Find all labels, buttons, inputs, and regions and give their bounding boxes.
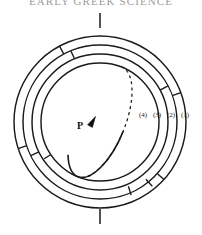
- ring-label-3: (3): [153, 112, 161, 119]
- radial-connector-ul-a: [60, 46, 64, 54]
- point-p-marker: [88, 116, 96, 127]
- ring-label-1: (1): [181, 112, 189, 119]
- radial-connector-ll-b: [31, 152, 39, 156]
- ring-circle-3: [32, 54, 168, 190]
- point-p-label: P: [77, 121, 83, 131]
- radial-connector-ul-b: [71, 51, 75, 59]
- radial-connector-ur-a: [172, 93, 180, 96]
- great-circle-back-arc: [55, 58, 146, 186]
- ring-circle-2: [23, 45, 177, 199]
- radial-connector-ll-a: [18, 146, 27, 149]
- figure-root: EARLY GREEK SCIENCE: [0, 0, 202, 235]
- direction-arrowhead: [88, 116, 96, 127]
- ring-circle-1: [14, 36, 186, 208]
- radial-connector-ur-b: [160, 86, 168, 90]
- great-circle-front-arc: [55, 58, 146, 186]
- radial-connector-ll-c: [44, 155, 51, 159]
- ring-label-4: (4): [139, 112, 147, 119]
- ring-label-2: (2): [167, 112, 175, 119]
- radial-connector-lr-a: [157, 174, 164, 180]
- ring-circle-4: [41, 63, 159, 181]
- concentric-rings: [14, 36, 186, 208]
- great-circle-group: [55, 58, 146, 186]
